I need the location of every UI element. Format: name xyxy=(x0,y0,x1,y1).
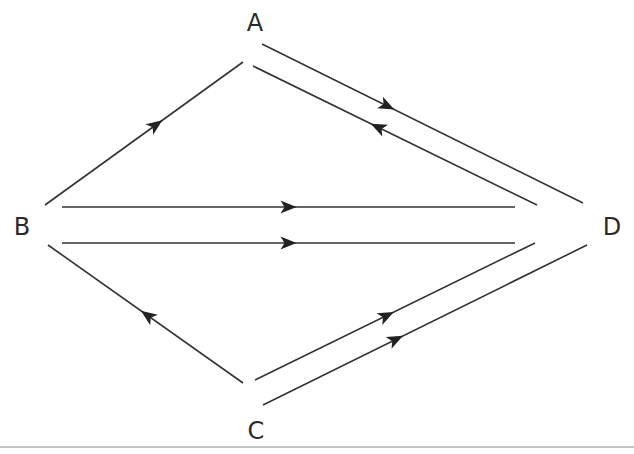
node-label-d: D xyxy=(603,213,621,241)
edge-a-to-d xyxy=(262,44,583,203)
edge-c-to-d-lower xyxy=(263,245,587,405)
graph-diagram: A B C D xyxy=(0,0,634,454)
arrowheads-group xyxy=(141,97,403,349)
edge-c-to-d-upper xyxy=(255,243,535,380)
edge-d-to-a xyxy=(253,66,537,205)
edge-b-to-a xyxy=(45,62,243,205)
node-label-b: B xyxy=(14,213,30,241)
node-label-a: A xyxy=(247,9,264,37)
edges-group xyxy=(45,44,587,405)
arrowhead-c-to-b-icon xyxy=(141,311,158,326)
node-label-c: C xyxy=(248,417,265,445)
arrowhead-b-to-a-icon xyxy=(146,120,163,135)
